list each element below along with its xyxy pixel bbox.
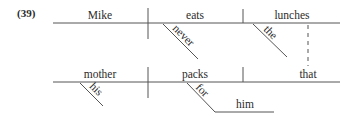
preposition-word: for <box>194 81 212 99</box>
main-clause-diagram: Mike eats lunches never the <box>53 8 340 59</box>
object-word: lunches <box>274 9 310 21</box>
determiner-word: the <box>262 23 280 41</box>
subject-word-2: mother <box>84 68 117 80</box>
verb-word-2: packs <box>182 68 209 81</box>
subject-word: Mike <box>88 9 112 21</box>
prep-object-word: him <box>236 98 254 110</box>
possessive-word: his <box>88 80 106 98</box>
sentence-diagram: (39) Mike eats lunches never the mother … <box>0 0 358 118</box>
verb-word: eats <box>186 9 204 21</box>
object-word-2: that <box>299 68 317 80</box>
relative-clause-diagram: mother packs that his for him <box>53 67 340 112</box>
example-number: (39) <box>17 7 36 20</box>
